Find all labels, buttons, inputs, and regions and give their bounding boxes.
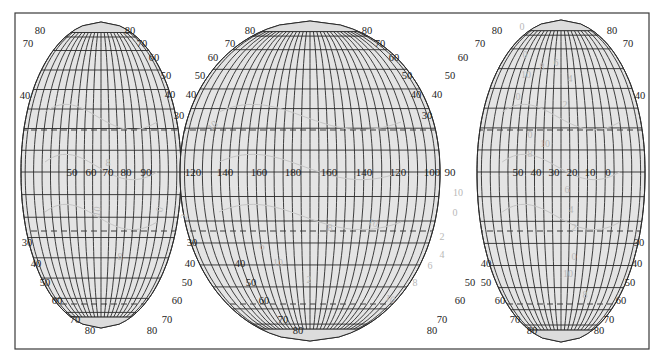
latitude-label: 40 bbox=[186, 89, 197, 100]
map-container: 1080281061028101086421000086104020108642… bbox=[0, 0, 661, 359]
latitude-label: 60 bbox=[458, 52, 469, 63]
latitude-label: 50 bbox=[465, 277, 476, 288]
contour-value-label: 10 bbox=[90, 206, 103, 218]
center-lobe bbox=[180, 19, 440, 343]
latitude-label: 60 bbox=[455, 295, 466, 306]
latitude-label: 30 bbox=[22, 237, 33, 248]
contour-value-label: 8 bbox=[328, 222, 333, 233]
contour-value-label: 10 bbox=[453, 187, 463, 198]
latitude-label: 80 bbox=[607, 25, 618, 36]
latitude-label: 70 bbox=[510, 314, 521, 325]
longitude-label: 160 bbox=[251, 166, 268, 178]
latitude-label: 70 bbox=[162, 314, 173, 325]
latitude-label: 50 bbox=[246, 277, 257, 288]
longitude-label: 40 bbox=[531, 166, 543, 178]
latitude-label: 40 bbox=[632, 258, 643, 269]
contour-value-label: 8 bbox=[118, 251, 123, 262]
contour-value-label: 8 bbox=[540, 61, 545, 72]
latitude-label: 40 bbox=[31, 258, 42, 269]
latitude-label: 50 bbox=[481, 277, 492, 288]
latitude-label: 40 bbox=[411, 89, 422, 100]
longitude-label: 80 bbox=[121, 166, 133, 178]
latitude-label: 50 bbox=[195, 70, 206, 81]
longitude-label: 120 bbox=[185, 166, 202, 178]
latitude-label: 30 bbox=[422, 110, 433, 121]
latitude-label: 70 bbox=[475, 38, 486, 49]
latitude-label: 80 bbox=[125, 25, 136, 36]
contour-value-label: 4 bbox=[569, 204, 574, 215]
longitude-label: 50 bbox=[513, 166, 525, 178]
latitude-label: 60 bbox=[172, 295, 183, 306]
contour-value-label: 10 bbox=[563, 268, 573, 279]
latitude-label: 80 bbox=[492, 25, 503, 36]
latitude-label: 60 bbox=[259, 295, 270, 306]
contour-value-label: 6 bbox=[260, 241, 265, 252]
latitude-label: 80 bbox=[362, 25, 373, 36]
longitude-label: 70 bbox=[103, 166, 115, 178]
latitude-label: 30 bbox=[174, 110, 185, 121]
interrupted-world-grid-map: 1080281061028101086421000086104020108642… bbox=[0, 0, 661, 359]
latitude-label: 40 bbox=[481, 258, 492, 269]
longitude-label: 0 bbox=[605, 166, 611, 178]
longitude-label: 50 bbox=[67, 166, 79, 178]
longitude-label: 90 bbox=[141, 166, 153, 178]
longitude-label: 10 bbox=[585, 166, 597, 178]
latitude-label: 80 bbox=[527, 325, 538, 336]
longitude-label: 120 bbox=[390, 166, 407, 178]
latitude-label: 50 bbox=[182, 277, 193, 288]
longitude-label: 180 bbox=[285, 166, 302, 178]
contour-value-label: 2 bbox=[563, 99, 568, 110]
contour-value-label: 10 bbox=[521, 69, 531, 80]
longitude-label: 20 bbox=[567, 166, 579, 178]
latitude-label: 50 bbox=[445, 70, 456, 81]
longitude-label: 90 bbox=[445, 166, 457, 178]
contour-value-label: 6 bbox=[565, 184, 570, 195]
longitude-label: 160 bbox=[321, 166, 338, 178]
lobes-layer bbox=[21, 18, 645, 344]
contour-value-label: 2 bbox=[572, 222, 577, 233]
contour-value-label: 0 bbox=[528, 129, 533, 140]
latitude-label: 50 bbox=[40, 277, 51, 288]
latitude-label: 60 bbox=[149, 52, 160, 63]
latitude-label: 60 bbox=[389, 52, 400, 63]
contour-value-label: 6 bbox=[554, 57, 559, 68]
latitude-label: 60 bbox=[52, 295, 63, 306]
contour-value-label: 8 bbox=[528, 148, 533, 159]
contour-value-label: 8 bbox=[583, 289, 588, 300]
latitude-label: 80 bbox=[85, 325, 96, 336]
contour-value-label: 0 bbox=[572, 251, 577, 262]
longitude-label: 30 bbox=[549, 166, 561, 178]
latitude-label: 50 bbox=[402, 70, 413, 81]
latitude-label: 40 bbox=[165, 89, 176, 100]
latitude-label: 50 bbox=[161, 70, 172, 81]
longitude-label: 100 bbox=[424, 166, 441, 178]
contour-value-label: 2 bbox=[307, 274, 312, 285]
latitude-label: 30 bbox=[187, 237, 198, 248]
latitude-label: 40 bbox=[20, 90, 31, 101]
contour-value-label: 4 bbox=[440, 249, 445, 260]
latitude-label: 50 bbox=[625, 277, 636, 288]
latitude-label: 80 bbox=[427, 325, 438, 336]
latitude-label: 80 bbox=[594, 325, 605, 336]
contour-value-label: 0 bbox=[516, 91, 521, 102]
latitude-label: 30 bbox=[634, 237, 645, 248]
latitude-label: 70 bbox=[278, 314, 289, 325]
contour-value-label: 10 bbox=[273, 257, 283, 268]
latitude-label: 70 bbox=[623, 38, 634, 49]
latitude-label: 70 bbox=[225, 38, 236, 49]
latitude-label: 70 bbox=[23, 38, 34, 49]
contour-value-label: 8 bbox=[413, 277, 418, 288]
latitude-label: 80 bbox=[147, 325, 158, 336]
latitude-label: 70 bbox=[70, 314, 81, 325]
latitude-label: 80 bbox=[35, 25, 46, 36]
contour-value-label: 0 bbox=[453, 207, 458, 218]
contour-value-label: 10 bbox=[540, 138, 550, 149]
latitude-label: 40 bbox=[635, 90, 646, 101]
contour-value-label: 4 bbox=[568, 73, 573, 84]
contour-value-label: 2 bbox=[440, 231, 445, 242]
longitude-label: 140 bbox=[217, 166, 234, 178]
latitude-label: 40 bbox=[185, 258, 196, 269]
latitude-label: 60 bbox=[495, 295, 506, 306]
latitude-label: 60 bbox=[616, 295, 627, 306]
latitude-label: 80 bbox=[293, 325, 304, 336]
